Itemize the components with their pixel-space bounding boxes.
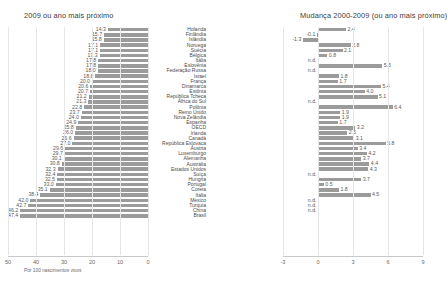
- right-axis-tick: -3: [281, 259, 286, 265]
- left-bar: [88, 100, 148, 104]
- left-bar: [108, 28, 148, 32]
- left-bar: [78, 121, 148, 125]
- left-panel-title: 2009 ou ano mais próximo: [24, 11, 114, 20]
- right-bar: [318, 193, 371, 197]
- gridline: [64, 27, 65, 255]
- gridline: [353, 27, 354, 255]
- gridline: [36, 27, 37, 255]
- left-bar: [81, 116, 148, 120]
- left-bar: [56, 183, 148, 187]
- left-bar: [89, 95, 148, 99]
- right-bar: [318, 105, 393, 109]
- left-bar: [104, 33, 148, 37]
- left-bar: [40, 193, 148, 197]
- left-bar: [57, 178, 148, 182]
- right-bar: [303, 38, 318, 42]
- left-bar-value: 47.4: [8, 213, 18, 218]
- left-bar: [98, 69, 148, 73]
- right-bar: [318, 54, 327, 58]
- right-bar: [318, 80, 338, 84]
- left-bar: [57, 173, 148, 177]
- right-bar-chart: 2.4-0.1-1.32.82.10.8n.d.5.5n.d.1.81.75.4…: [283, 27, 423, 255]
- left-bar: [98, 59, 148, 63]
- right-bar: [318, 74, 339, 78]
- right-axis-tick: 6: [386, 259, 389, 265]
- left-bar-row: 47.4: [8, 213, 148, 218]
- right-bar: [318, 162, 369, 166]
- right-axis-tick: 9: [421, 259, 424, 265]
- left-axis-tick: 20: [89, 259, 95, 265]
- right-bar: [318, 167, 368, 171]
- left-bar: [20, 209, 148, 213]
- right-axis-tick: 0: [316, 259, 319, 265]
- left-axis-tick: 30: [61, 259, 67, 265]
- right-bar: [318, 188, 339, 192]
- left-bar: [75, 131, 148, 135]
- gridline: [120, 27, 121, 255]
- gridline: [92, 27, 93, 255]
- gridline: [148, 27, 149, 255]
- right-bar: [318, 28, 346, 32]
- left-axis-tick: 40: [33, 259, 39, 265]
- right-bar: [318, 136, 354, 140]
- right-panel-title: Mudança 2000-2009 (ou ano mais próximo): [300, 11, 447, 20]
- right-axis-tick: 3: [351, 259, 354, 265]
- right-bar: [318, 90, 365, 94]
- left-bar: [74, 136, 148, 140]
- gridline: [318, 27, 319, 255]
- left-axis-tick: 0: [146, 259, 149, 265]
- left-bar: [104, 38, 148, 42]
- left-bar: [58, 167, 148, 171]
- left-bar: [72, 142, 148, 146]
- right-axis: -30369: [283, 256, 423, 270]
- gridline: [423, 27, 424, 255]
- left-chart-rows: 14.315.715.817.117.117.317.817.818.018.8…: [8, 27, 148, 255]
- left-bar: [76, 126, 148, 130]
- left-axis-tick: 10: [117, 259, 123, 265]
- left-bar: [95, 74, 148, 78]
- right-bar: [318, 116, 340, 120]
- country-label: Brasil: [150, 213, 206, 218]
- left-bar: [64, 157, 148, 161]
- left-bar: [100, 54, 148, 58]
- left-bar: [84, 105, 148, 109]
- right-bar: [318, 95, 378, 99]
- left-bar: [65, 147, 148, 151]
- right-bar: [318, 111, 340, 115]
- gridline: [283, 27, 284, 255]
- gridline: [8, 27, 9, 255]
- left-bar: [28, 204, 148, 208]
- left-bar: [100, 49, 148, 53]
- left-bar: [30, 199, 148, 203]
- left-bar: [100, 43, 148, 47]
- right-bar: [318, 64, 382, 68]
- left-axis-line: [8, 256, 148, 257]
- left-axis-tick: 50: [5, 259, 11, 265]
- left-bar: [98, 64, 148, 68]
- right-bar: [318, 157, 361, 161]
- gridline: [388, 27, 389, 255]
- right-axis-line: [283, 256, 423, 257]
- right-bar: [318, 142, 386, 146]
- left-bar: [65, 152, 148, 156]
- left-bar-chart: 14.315.715.817.117.117.317.817.818.018.8…: [8, 27, 148, 255]
- left-axis-note: Por 100 nascimentos vivos: [24, 268, 81, 273]
- left-bar: [20, 214, 148, 218]
- country-labels-column: HolandaFinlândiaIslândiaNoruegaSuéciaBél…: [150, 27, 206, 255]
- right-bar: [318, 152, 367, 156]
- right-bar: [318, 131, 347, 135]
- right-bar: [318, 183, 324, 187]
- right-bar: [318, 147, 358, 151]
- right-bar: [318, 121, 338, 125]
- left-bar: [62, 162, 148, 166]
